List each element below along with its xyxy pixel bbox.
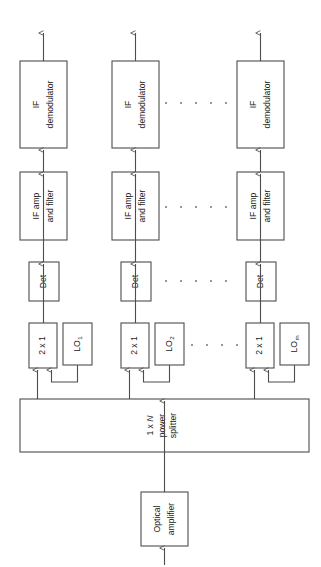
power-splitter-label-line1: 1 x N xyxy=(145,415,155,436)
channel-1-coupler-label: 2 x 1 xyxy=(37,336,47,355)
channel-2-if-demodulator-box[interactable] xyxy=(112,61,159,148)
channel-1-if-demodulator-label-line1: IF xyxy=(31,101,41,109)
channel-1-group: IF demodulator IF amp and filter Det 2 x… xyxy=(20,33,92,399)
channel-2-lo-text: LO xyxy=(164,340,174,352)
ellipsis-detector-row xyxy=(165,280,227,282)
channel-1-if-demodulator-label-line2: demodulator xyxy=(45,80,55,128)
channel-2-if-demodulator-label-line2: demodulator xyxy=(137,80,147,128)
ellipsis-if-amp-row xyxy=(165,206,227,208)
channel-m-lo-subscript: m xyxy=(293,335,300,340)
optical-amplifier-label-line1: Optical xyxy=(152,506,162,533)
channel-2-lo-subscript: 2 xyxy=(168,336,175,340)
optical-amplifier-box[interactable] xyxy=(141,492,188,546)
power-splitter-label-line2: power xyxy=(157,414,167,438)
channel-m-if-demodulator-label-line1: IF xyxy=(248,101,258,109)
ellipsis-demodulator-row xyxy=(165,102,227,104)
channel-1-lo-subscript: 1 xyxy=(76,336,83,340)
channel-m-if-amp-label-line2: and filter xyxy=(262,189,272,222)
channel-2-if-amp-label-line1: IF amp xyxy=(123,192,133,219)
channel-m-coupler-label: 2 x 1 xyxy=(254,336,264,355)
channel-m-lo-text: LO xyxy=(289,341,299,353)
channel-m-if-demodulator-label-line2: demodulator xyxy=(262,80,272,128)
channel-2-group: IF demodulator IF amp and filter Det 2 x… xyxy=(112,33,184,399)
power-splitter-label-line3: splitter xyxy=(168,413,178,438)
channel-m-if-demodulator-box[interactable] xyxy=(237,61,284,148)
optical-amplifier-label-line2: amplifier xyxy=(166,503,176,536)
channel-2-if-demodulator-label-line1: IF xyxy=(123,101,133,109)
channel-1-if-demodulator-box[interactable] xyxy=(20,61,67,148)
channel-2-coupler-label: 2 x 1 xyxy=(129,336,139,355)
channel-m-group: IF demodulator IF amp and filter Det 2 x… xyxy=(237,33,309,399)
power-splitter-prefix: 1 x xyxy=(145,422,155,436)
ellipsis-coupler-row xyxy=(191,344,238,346)
channel-1-lo-text: LO xyxy=(72,340,82,352)
channel-1-if-amp-label-line2: and filter xyxy=(45,189,55,222)
figure-canvas: IF demodulator IF amp and filter Det 2 x… xyxy=(0,0,321,567)
channel-1-if-amp-label-line1: IF amp xyxy=(31,192,41,219)
power-splitter-n-italic: N xyxy=(145,415,155,422)
channel-m-if-amp-label-line1: IF amp xyxy=(248,192,258,219)
block-diagram: IF demodulator IF amp and filter Det 2 x… xyxy=(0,0,321,567)
channel-2-if-amp-label-line2: and filter xyxy=(137,189,147,222)
